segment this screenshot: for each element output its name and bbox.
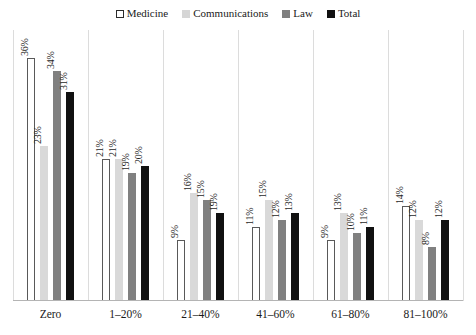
bar-communications-3[interactable]: 16% bbox=[190, 30, 198, 301]
bar-value-label: 9% bbox=[170, 225, 180, 238]
bar-value-label: 19% bbox=[121, 153, 131, 171]
x-axis-labels: Zero1–20%21–40%41–60%61–80%81–100% bbox=[13, 308, 463, 328]
bar-value-label: 11% bbox=[359, 208, 369, 225]
x-axis-category-label: 81–100% bbox=[388, 308, 463, 320]
bar-total-2[interactable]: 20% bbox=[141, 30, 149, 301]
bar-rect[interactable] bbox=[27, 58, 35, 301]
bar-rect[interactable] bbox=[141, 166, 149, 301]
bar-group: 21%21%19%20% bbox=[88, 30, 163, 301]
bar-value-label: 21% bbox=[108, 139, 118, 157]
legend-item-medicine[interactable]: Medicine bbox=[116, 8, 169, 19]
bar-total-6[interactable]: 12% bbox=[441, 30, 449, 301]
legend-swatch-total-icon bbox=[327, 10, 335, 18]
legend-item-law[interactable]: Law bbox=[282, 8, 313, 19]
bar-group: 36%23%34%31% bbox=[13, 30, 88, 301]
legend-swatch-communications-icon bbox=[182, 10, 190, 18]
bar-law-2[interactable]: 19% bbox=[128, 30, 136, 301]
bar-law-6[interactable]: 8% bbox=[428, 30, 436, 301]
bar-rect[interactable] bbox=[216, 213, 224, 301]
group-separator-line bbox=[463, 30, 464, 301]
bar-rect[interactable] bbox=[327, 240, 335, 301]
bar-value-label: 13% bbox=[284, 193, 294, 211]
bar-rect[interactable] bbox=[203, 200, 211, 301]
bar-group: 9%13%10%11% bbox=[313, 30, 388, 301]
legend-label-medicine: Medicine bbox=[127, 8, 169, 19]
legend-label-communications: Communications bbox=[193, 8, 268, 19]
chart-legend: Medicine Communications Law Total bbox=[0, 8, 476, 19]
bar-medicine-5[interactable]: 9% bbox=[327, 30, 335, 301]
bar-total-5[interactable]: 11% bbox=[366, 30, 374, 301]
legend-item-communications[interactable]: Communications bbox=[182, 8, 268, 19]
bar-value-label: 15% bbox=[196, 180, 206, 198]
legend-item-total[interactable]: Total bbox=[327, 8, 360, 19]
bar-value-label: 15% bbox=[258, 180, 268, 198]
bar-value-label: 36% bbox=[20, 38, 30, 56]
bar-value-label: 11% bbox=[245, 208, 255, 225]
legend-swatch-medicine-icon bbox=[116, 10, 124, 18]
x-axis-line bbox=[13, 300, 463, 301]
bar-total-3[interactable]: 19% bbox=[216, 30, 224, 301]
legend-label-law: Law bbox=[293, 8, 313, 19]
bar-value-label: 20% bbox=[134, 146, 144, 164]
bar-communications-6[interactable]: 12% bbox=[415, 30, 423, 301]
bar-total-4[interactable]: 13% bbox=[291, 30, 299, 301]
bar-value-label: 13% bbox=[333, 193, 343, 211]
plot-area: 36%23%34%31%21%21%19%20%9%16%15%19%11%15… bbox=[13, 30, 463, 301]
bar-total-1[interactable]: 31% bbox=[66, 30, 74, 301]
bar-value-label: 12% bbox=[408, 200, 418, 218]
bar-rect[interactable] bbox=[115, 159, 123, 301]
bar-rect[interactable] bbox=[177, 240, 185, 301]
bar-value-label: 12% bbox=[271, 200, 281, 218]
bar-group: 9%16%15%19% bbox=[163, 30, 238, 301]
bar-chart: Medicine Communications Law Total 36%23%… bbox=[0, 0, 476, 335]
bar-law-5[interactable]: 10% bbox=[353, 30, 361, 301]
bar-rect[interactable] bbox=[366, 227, 374, 301]
bar-medicine-3[interactable]: 9% bbox=[177, 30, 185, 301]
bar-value-label: 14% bbox=[395, 186, 405, 204]
bar-value-label: 16% bbox=[183, 173, 193, 191]
bar-law-3[interactable]: 15% bbox=[203, 30, 211, 301]
bar-medicine-6[interactable]: 14% bbox=[402, 30, 410, 301]
bar-rect[interactable] bbox=[353, 233, 361, 301]
bar-medicine-1[interactable]: 36% bbox=[27, 30, 35, 301]
bar-rect[interactable] bbox=[102, 159, 110, 301]
bar-law-4[interactable]: 12% bbox=[278, 30, 286, 301]
bar-value-label: 9% bbox=[320, 225, 330, 238]
x-axis-category-label: Zero bbox=[13, 308, 88, 320]
bar-value-label: 31% bbox=[59, 72, 69, 90]
bar-rect[interactable] bbox=[402, 206, 410, 301]
bar-rect[interactable] bbox=[66, 92, 74, 301]
x-axis-category-label: 61–80% bbox=[313, 308, 388, 320]
bar-value-label: 12% bbox=[434, 200, 444, 218]
bar-communications-5[interactable]: 13% bbox=[340, 30, 348, 301]
bar-value-label: 8% bbox=[421, 232, 431, 245]
bar-medicine-4[interactable]: 11% bbox=[252, 30, 260, 301]
bar-rect[interactable] bbox=[190, 193, 198, 301]
bar-value-label: 19% bbox=[209, 193, 219, 211]
bar-rect[interactable] bbox=[128, 173, 136, 301]
x-axis-category-label: 21–40% bbox=[163, 308, 238, 320]
bar-value-label: 21% bbox=[95, 139, 105, 157]
legend-swatch-law-icon bbox=[282, 10, 290, 18]
bar-group: 14%12%8%12% bbox=[388, 30, 463, 301]
bar-rect[interactable] bbox=[291, 213, 299, 301]
bar-communications-1[interactable]: 23% bbox=[40, 30, 48, 301]
legend-label-total: Total bbox=[338, 8, 360, 19]
bar-value-label: 10% bbox=[346, 213, 356, 231]
bar-rect[interactable] bbox=[428, 247, 436, 301]
bar-group: 11%15%12%13% bbox=[238, 30, 313, 301]
bar-rect[interactable] bbox=[278, 220, 286, 301]
bar-rect[interactable] bbox=[53, 71, 61, 301]
bar-law-1[interactable]: 34% bbox=[53, 30, 61, 301]
bar-value-label: 23% bbox=[33, 126, 43, 144]
bar-rect[interactable] bbox=[40, 146, 48, 301]
bar-rect[interactable] bbox=[252, 227, 260, 301]
x-axis-category-label: 41–60% bbox=[238, 308, 313, 320]
bar-value-label: 34% bbox=[46, 51, 56, 69]
bar-communications-4[interactable]: 15% bbox=[265, 30, 273, 301]
bar-medicine-2[interactable]: 21% bbox=[102, 30, 110, 301]
x-axis-category-label: 1–20% bbox=[88, 308, 163, 320]
bar-rect[interactable] bbox=[441, 220, 449, 301]
